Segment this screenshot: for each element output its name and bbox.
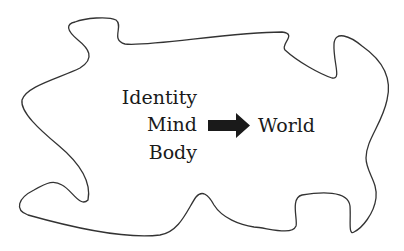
label-world: World xyxy=(258,114,315,136)
label-mind: Mind xyxy=(147,113,197,135)
label-identity: Identity xyxy=(122,86,197,108)
right-arrow-icon xyxy=(208,113,250,138)
label-body: Body xyxy=(149,141,198,163)
diagram-canvas: Identity Mind Body World xyxy=(0,0,404,251)
irregular-outline xyxy=(19,18,388,236)
